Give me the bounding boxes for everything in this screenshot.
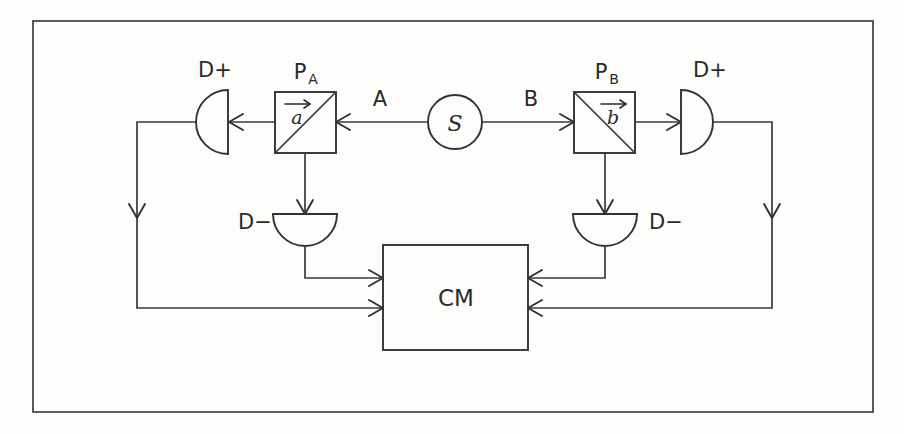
channel-label-b: B [524,87,538,111]
diagram-page: S A B P A P B a b D+ D+ D− D− CM [0,0,904,434]
detector-dminus-right-label: D− [649,210,683,234]
wire-dminus-left-to-cm [305,246,381,278]
detector-dminus-right-shape [573,214,637,246]
polarizer-b-subscript: B [609,71,619,87]
polarizer-b-label: P [595,60,608,84]
detector-dplus-right-shape [681,90,713,154]
polarizer-b-diagonal [575,93,634,152]
detector-dplus-left-label: D+ [198,58,232,82]
polarizer-a-subscript: A [308,71,318,87]
channel-label-a: A [373,87,388,111]
coincidence-monitor-label: CM [438,285,474,311]
detector-dminus-left-shape [273,214,337,246]
apparatus-diagram: S A B P A P B a b D+ D+ D− D− CM [0,0,904,434]
polarizer-a-vector-label: a [291,106,302,128]
polarizer-b-vector-label: b [607,106,619,128]
detector-dplus-right-label: D+ [693,58,727,82]
diagram-border [33,21,873,412]
source-label: S [447,111,462,136]
detector-dminus-left-label: D− [238,210,272,234]
detector-dplus-left-shape [196,90,228,154]
polarizer-a-label: P [294,60,307,84]
wire-dminus-right-to-cm [530,246,605,278]
